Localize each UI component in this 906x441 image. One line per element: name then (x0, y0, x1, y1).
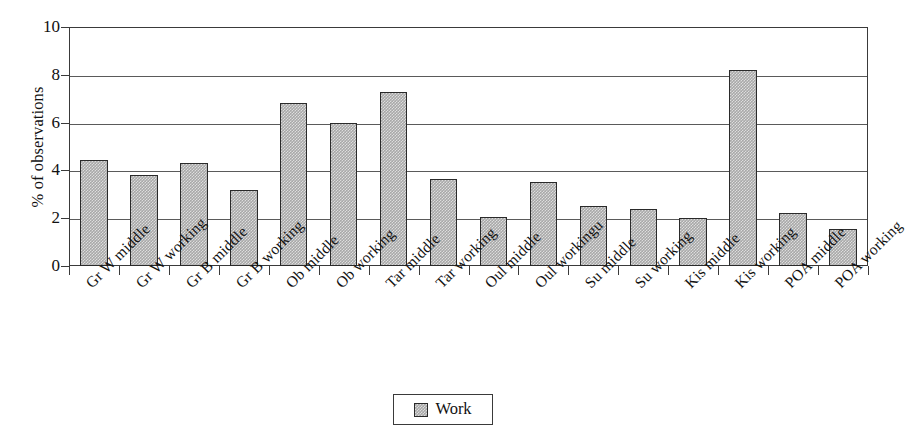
x-axis-tick-mark (518, 266, 519, 275)
chart-legend: Work (393, 394, 493, 425)
x-axis-tick-mark (668, 266, 669, 275)
x-axis-tick-mark (618, 266, 619, 275)
y-axis-tick-label: 8 (18, 66, 60, 83)
x-axis-tick-mark (768, 266, 769, 275)
bar (80, 160, 107, 266)
x-axis-tick-mark (818, 266, 819, 275)
y-axis-tick-label: 6 (18, 114, 60, 131)
y-axis-tick-mark (61, 218, 69, 219)
bar (130, 175, 157, 266)
y-axis-tick-label: 0 (18, 257, 60, 274)
x-axis-tick-mark (868, 266, 869, 275)
x-axis-tick-mark (69, 266, 70, 275)
legend-label-work: Work (435, 401, 471, 418)
x-axis-tick-mark (568, 266, 569, 275)
y-axis-tick-mark (61, 27, 69, 28)
bar (530, 182, 557, 266)
y-axis-tick-label: 2 (18, 209, 60, 226)
y-axis-tick-label: 10 (18, 18, 60, 35)
y-axis-tick-mark (61, 75, 69, 76)
y-axis-tick-mark (61, 123, 69, 124)
legend-swatch-work-icon (414, 403, 428, 417)
y-axis-tick-label: 4 (18, 161, 60, 178)
x-axis-tick-mark (718, 266, 719, 275)
y-axis-tick-mark (61, 266, 69, 267)
y-axis-tick-mark (61, 170, 69, 171)
bar (430, 179, 457, 266)
